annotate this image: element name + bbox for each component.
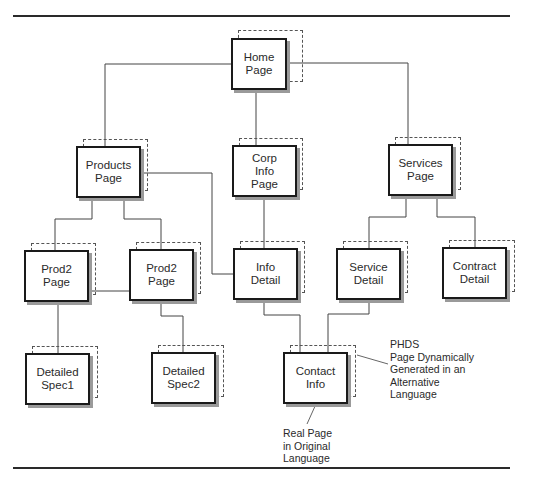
corp-info-page-node[interactable]: Corp Info Page	[232, 145, 297, 197]
service-detail-label: Service Detail	[349, 261, 387, 287]
prod2-page-b-node[interactable]: Prod2 Page	[129, 249, 194, 301]
services-page-node[interactable]: Services Page	[388, 144, 453, 196]
real-page-annotation: Real Page in Original Language	[283, 427, 332, 465]
info-detail-node[interactable]: Info Detail	[233, 248, 298, 300]
products-page-label: Products Page	[86, 159, 131, 185]
prod2-page-b-label: Prod2 Page	[146, 262, 177, 288]
info-detail-label: Info Detail	[251, 261, 280, 287]
home-page-node[interactable]: Home Page	[231, 38, 287, 90]
phds-annotation: PHDS Page Dynamically Generated in an Al…	[390, 338, 474, 401]
corp-info-page-label: Corp Info Page	[251, 152, 278, 191]
prod2-page-a-label: Prod2 Page	[41, 263, 72, 289]
detailed-spec1-node[interactable]: Detailed Spec1	[25, 353, 90, 405]
prod2-page-a-node[interactable]: Prod2 Page	[24, 250, 89, 302]
contract-detail-label: Contract Detail	[453, 260, 496, 286]
contact-info-node[interactable]: Contact Info	[283, 352, 348, 404]
contact-info-label: Contact Info	[296, 365, 336, 391]
detailed-spec2-node[interactable]: Detailed Spec2	[151, 352, 216, 404]
services-page-label: Services Page	[398, 157, 442, 183]
detailed-spec1-label: Detailed Spec1	[36, 366, 78, 392]
service-detail-node[interactable]: Service Detail	[336, 248, 401, 300]
home-page-label: Home Page	[244, 51, 275, 77]
detailed-spec2-label: Detailed Spec2	[162, 365, 204, 391]
contract-detail-node[interactable]: Contract Detail	[442, 247, 507, 299]
products-page-node[interactable]: Products Page	[76, 146, 141, 198]
